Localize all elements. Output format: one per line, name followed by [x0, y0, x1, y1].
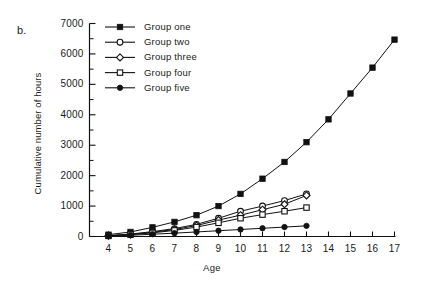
x-tick-label: 15: [341, 243, 361, 254]
marker-open-square: [216, 220, 221, 225]
marker-filled-circle: [282, 224, 287, 229]
marker-filled-square: [260, 176, 265, 181]
y-tick-label: 0: [44, 231, 84, 242]
marker-filled-circle: [128, 233, 133, 238]
marker-filled-circle: [304, 223, 309, 228]
y-tick-label: 3000: [44, 139, 84, 150]
legend-label: Group one: [144, 21, 191, 32]
marker-filled-circle: [194, 229, 199, 234]
marker-open-square: [282, 209, 287, 214]
legend-label: Group four: [144, 67, 191, 78]
marker-filled-square: [216, 203, 221, 208]
axes-group: [90, 24, 396, 237]
marker-filled-square: [370, 65, 375, 70]
legend-group: [105, 24, 135, 90]
x-tick-label: 12: [275, 243, 295, 254]
marker-filled-square: [348, 91, 353, 96]
series-line: [109, 194, 307, 236]
marker-filled-circle: [238, 227, 243, 232]
x-tick-label: 13: [297, 243, 317, 254]
x-tick-label: 4: [99, 243, 119, 254]
series-line: [109, 195, 307, 235]
x-tick-label: 9: [209, 243, 229, 254]
y-tick-label: 7000: [44, 18, 84, 29]
series-3: [105, 192, 310, 239]
marker-filled-square: [172, 219, 177, 224]
marker-filled-circle: [172, 230, 177, 235]
x-tick-label: 6: [143, 243, 163, 254]
legend-label: Group five: [144, 82, 190, 93]
x-tick-label: 11: [253, 243, 273, 254]
legend-label: Group three: [144, 51, 197, 62]
x-tick-label: 16: [363, 243, 383, 254]
y-tick-group: [90, 24, 96, 237]
marker-open-square: [260, 212, 265, 217]
y-tick-label: 1000: [44, 200, 84, 211]
marker-filled-square: [282, 159, 287, 164]
legend-label: Group two: [144, 36, 190, 47]
y-tick-label: 6000: [44, 48, 84, 59]
marker-filled-square: [326, 117, 331, 122]
x-tick-label: 8: [187, 243, 207, 254]
x-tick-label: 14: [319, 243, 339, 254]
x-tick-label: 10: [231, 243, 251, 254]
marker-filled-square: [194, 213, 199, 218]
marker-open-square: [238, 216, 243, 221]
marker-filled-circle: [260, 226, 265, 231]
marker-filled-circle: [106, 233, 111, 238]
marker-filled-circle: [117, 85, 122, 90]
marker-filled-square: [304, 139, 309, 144]
marker-open-square: [117, 70, 122, 75]
marker-filled-circle: [150, 232, 155, 237]
y-tick-label: 2000: [44, 170, 84, 181]
x-tick-label: 17: [385, 243, 405, 254]
marker-open-diamond: [117, 54, 124, 61]
figure-panel: b. Cumulative number of hours Age 010002…: [0, 0, 424, 281]
marker-open-square: [304, 205, 309, 210]
series-line: [109, 226, 307, 236]
marker-open-circle: [117, 39, 123, 45]
marker-filled-circle: [216, 228, 221, 233]
marker-filled-square: [392, 37, 397, 42]
x-tick-label: 7: [165, 243, 185, 254]
y-tick-label: 5000: [44, 78, 84, 89]
y-tick-label: 4000: [44, 109, 84, 120]
marker-filled-square: [117, 24, 122, 29]
x-tick-label: 5: [121, 243, 141, 254]
marker-filled-square: [238, 191, 243, 196]
